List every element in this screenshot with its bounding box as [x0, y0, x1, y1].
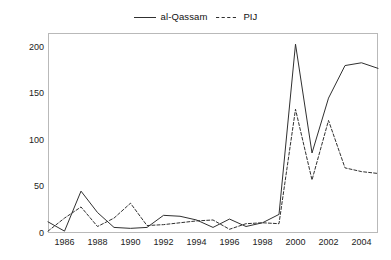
chart-figure: al-Qassam PIJ 050100150200 1986198819901…	[0, 0, 391, 260]
x-axis-tick-labels: 1986198819901992199419961998200020022004	[0, 0, 391, 260]
x-tick-label: 2004	[342, 238, 382, 247]
